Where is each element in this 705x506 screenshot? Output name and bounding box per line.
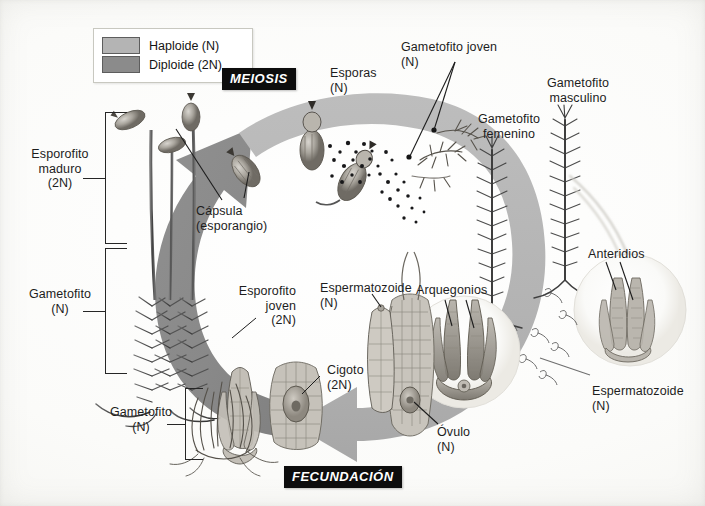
bracket-esporofito-maduro: [105, 112, 127, 244]
label-ovulo: Óvulo (N): [437, 425, 497, 454]
antheridia-inset-illustration: [574, 254, 686, 366]
label-gametofito-femenino: Gametofito femenino: [464, 112, 554, 141]
label-espermatozoide-derecha: Espermatozoide (N): [592, 384, 702, 413]
label-cigoto: Cigoto (2N): [327, 363, 387, 392]
legend-swatch-haploid: [102, 37, 140, 54]
label-anteridios: Anteridios: [588, 247, 678, 262]
label-gametofito-masculino: Gametofito masculino: [528, 76, 628, 105]
legend-label-diploid: Diploide (2N): [149, 58, 222, 72]
zygote-illustration: [270, 362, 323, 450]
moss-life-cycle-diagram: Haploide (N) Diploide (2N) MEIOSIS FECUN…: [0, 0, 705, 506]
label-esporofito-joven: Esporofito joven (2N): [218, 284, 296, 328]
legend-label-haploid: Haploide (N): [149, 39, 219, 53]
label-gametofito-inferior: Gametofito (N): [99, 405, 183, 434]
bracket-gametofito-inferior: [185, 388, 203, 460]
fecundacion-banner: FECUNDACIÓN: [284, 466, 402, 488]
bracket-gametofito-izq: [105, 248, 127, 374]
meiosis-banner: MEIOSIS: [222, 68, 296, 90]
label-capsula-esporangio: Cápsula (esporangio): [196, 204, 306, 233]
label-espermatozoide-izquierda: Espermatozoide (N): [320, 281, 420, 310]
legend-item-haploid: Haploide (N): [102, 37, 244, 54]
legend-swatch-diploid: [102, 56, 140, 73]
sperm-cell-illustration: [368, 305, 395, 413]
label-gametofito-joven: Gametofito joven (N): [401, 40, 531, 69]
label-arquegonios: Arquegonios: [416, 283, 516, 298]
label-esporas: Esporas (N): [330, 66, 400, 95]
label-gametofito-izquierda: Gametofito (N): [18, 287, 102, 316]
label-esporofito-maduro: Esporofito maduro (2N): [18, 147, 102, 191]
